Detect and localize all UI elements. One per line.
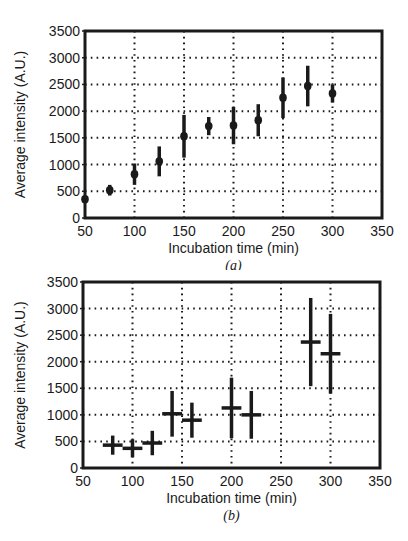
data-point xyxy=(222,378,242,439)
y-tick-label: 3000 xyxy=(49,50,80,66)
x-axis-label: Incubation time (min) xyxy=(166,490,297,506)
data-point xyxy=(131,164,139,185)
y-tick-label: 1000 xyxy=(49,157,80,173)
data-points xyxy=(103,298,341,457)
data-point xyxy=(162,391,182,437)
y-tick-label: 1000 xyxy=(47,407,78,423)
panel-caption: (b) xyxy=(223,508,240,524)
chart-panel-b: 0500100015002000250030003500 50100150200… xyxy=(0,270,408,541)
x-tick-labels: 50100150200250300350 xyxy=(75,473,392,489)
x-tick-label: 150 xyxy=(172,223,196,239)
chart-b-svg: 0500100015002000250030003500 50100150200… xyxy=(0,270,408,541)
x-tick-label: 150 xyxy=(170,473,194,489)
x-axis-label: Incubation time (min) xyxy=(168,240,299,256)
data-point xyxy=(304,66,312,107)
data-point xyxy=(321,314,341,394)
data-point xyxy=(155,146,163,176)
data-point xyxy=(205,117,213,135)
data-point xyxy=(123,439,143,457)
y-tick-labels: 0500100015002000250030003500 xyxy=(47,274,83,476)
data-point xyxy=(241,391,261,439)
data-point xyxy=(106,185,114,196)
y-tick-label: 2000 xyxy=(49,103,80,119)
y-tick-labels: 0500100015002000250030003500 xyxy=(49,23,85,226)
y-tick-label: 3500 xyxy=(49,23,80,39)
data-points xyxy=(81,66,336,204)
y-tick-label: 1500 xyxy=(49,130,80,146)
y-tick-label: 2500 xyxy=(49,76,80,92)
data-point xyxy=(142,431,162,455)
x-tick-label: 250 xyxy=(269,473,293,489)
chart-a-svg: 0500100015002000250030003500 50100150200… xyxy=(0,0,408,270)
data-point xyxy=(279,77,287,118)
y-axis-label: Average intensity (A.U.) xyxy=(12,301,28,449)
y-axis-label: Average intensity (A.U.) xyxy=(12,51,28,199)
y-tick-label: 1500 xyxy=(47,380,78,396)
x-tick-label: 300 xyxy=(319,473,343,489)
data-point xyxy=(329,84,337,102)
x-tick-label: 300 xyxy=(321,223,345,239)
data-point xyxy=(180,115,188,158)
y-tick-label: 500 xyxy=(57,183,81,199)
x-tick-label: 250 xyxy=(271,223,295,239)
x-tick-label: 50 xyxy=(75,473,91,489)
x-tick-label: 100 xyxy=(123,223,147,239)
y-tick-label: 2500 xyxy=(47,327,78,343)
x-tick-label: 350 xyxy=(368,473,392,489)
x-tick-label: 350 xyxy=(370,223,394,239)
x-tick-labels: 50100150200250300350 xyxy=(77,223,394,239)
chart-panel-a: 0500100015002000250030003500 50100150200… xyxy=(0,0,408,270)
x-tick-label: 50 xyxy=(77,223,93,239)
data-point xyxy=(301,298,321,386)
data-point xyxy=(254,104,262,136)
gridlines xyxy=(83,282,380,468)
data-point xyxy=(103,436,123,455)
y-tick-label: 3000 xyxy=(47,301,78,317)
x-tick-label: 200 xyxy=(220,473,244,489)
x-tick-label: 100 xyxy=(121,473,145,489)
data-point xyxy=(182,403,202,438)
y-tick-label: 3500 xyxy=(47,274,78,290)
y-tick-label: 500 xyxy=(55,433,79,449)
y-tick-label: 2000 xyxy=(47,354,78,370)
panel-caption: (a) xyxy=(225,258,242,270)
x-tick-label: 200 xyxy=(222,223,246,239)
